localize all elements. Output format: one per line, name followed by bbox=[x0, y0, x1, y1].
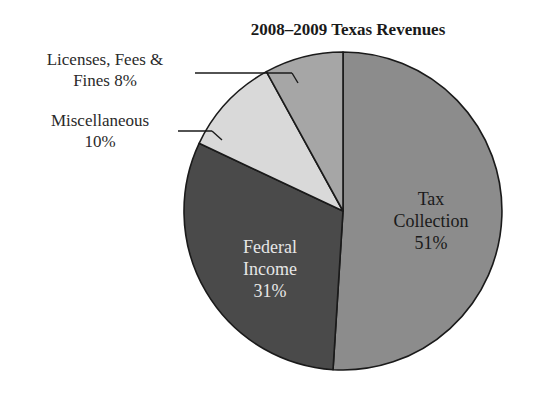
label-federal: Federal Income 31% bbox=[220, 236, 320, 302]
label-misc: Miscellaneous 10% bbox=[20, 110, 180, 152]
pie-chart: 2008–2009 Texas Revenues Licenses, Fees … bbox=[0, 0, 536, 395]
label-licenses-line1: Licenses, Fees & bbox=[20, 49, 190, 70]
label-misc-line2: 10% bbox=[20, 131, 180, 152]
label-federal-line1: Federal bbox=[220, 236, 320, 258]
label-tax-line1: Tax bbox=[376, 188, 486, 210]
label-licenses-line2: Fines 8% bbox=[20, 70, 190, 91]
label-federal-line2: Income bbox=[220, 258, 320, 280]
label-tax-line3: 51% bbox=[376, 232, 486, 254]
label-misc-line1: Miscellaneous bbox=[20, 110, 180, 131]
label-federal-line3: 31% bbox=[220, 280, 320, 302]
label-tax: Tax Collection 51% bbox=[376, 188, 486, 254]
label-licenses: Licenses, Fees & Fines 8% bbox=[20, 49, 190, 91]
label-tax-line2: Collection bbox=[376, 210, 486, 232]
